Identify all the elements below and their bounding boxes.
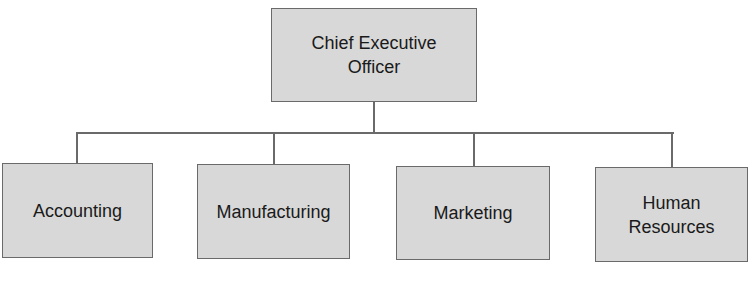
node-label-line2: Resources (628, 215, 714, 239)
node-label: Accounting (33, 199, 122, 223)
node-human-resources: Human Resources (595, 167, 748, 262)
connector-marketing (473, 133, 475, 167)
connector-root-down (373, 101, 375, 134)
node-label-line2: Officer (311, 55, 436, 79)
node-marketing: Marketing (396, 166, 550, 260)
node-manufacturing: Manufacturing (197, 164, 350, 259)
node-chief-executive-officer: Chief Executive Officer (271, 8, 477, 102)
node-label-line1: Chief Executive (311, 31, 436, 55)
connector-horizontal (76, 132, 674, 134)
node-label: Manufacturing (216, 200, 330, 224)
node-label: Marketing (433, 201, 512, 225)
node-accounting: Accounting (2, 163, 153, 258)
node-label-line1: Human (628, 191, 714, 215)
connector-manufacturing (273, 132, 275, 165)
connector-accounting (76, 132, 78, 164)
connector-human-resources (671, 134, 673, 168)
